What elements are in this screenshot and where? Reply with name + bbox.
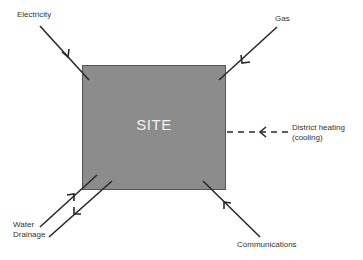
gas-label: Gas <box>275 14 290 24</box>
electricity-label: Electricity <box>17 10 51 20</box>
water-label: Water <box>13 220 45 230</box>
communications-label: Communications <box>237 240 297 250</box>
district-heating-label: District heating (cooling) <box>292 123 345 143</box>
site-utilities-diagram: SITE Electric <box>0 0 363 260</box>
water-drainage-label: Water Drainage <box>13 220 45 240</box>
electricity-arrow <box>40 26 89 80</box>
gas-arrow <box>219 27 277 80</box>
district-heating-arrow <box>227 127 288 137</box>
district-heating-label-line1: District heating <box>292 123 345 133</box>
district-heating-label-line2: (cooling) <box>292 133 345 143</box>
communications-arrow <box>203 181 260 237</box>
drainage-label: Drainage <box>13 230 45 240</box>
